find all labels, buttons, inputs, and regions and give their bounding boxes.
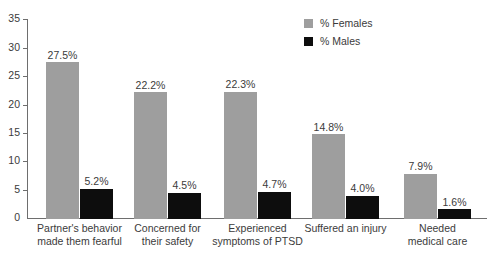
y-tick-label: 0	[14, 211, 20, 223]
x-axis-category-label: made them fearful	[37, 235, 122, 247]
bar-males	[346, 196, 379, 219]
legend-swatch-males	[304, 37, 313, 46]
bar-males	[168, 193, 201, 219]
x-axis-category-label: Partner's behavior	[37, 222, 122, 234]
y-tick-label: 35	[8, 12, 20, 24]
bar-value-label: 27.5%	[48, 49, 78, 61]
bar-value-label: 22.2%	[136, 79, 166, 91]
bar-value-label: 4.5%	[173, 179, 197, 191]
x-axis-category-label: Experienced	[228, 222, 287, 234]
y-tick-label: 20	[8, 98, 20, 110]
x-axis-category-label: Concerned for	[134, 222, 201, 234]
bar-value-label: 5.2%	[85, 175, 109, 187]
legend-label-males: % Males	[320, 35, 360, 47]
bar-males	[438, 209, 471, 218]
y-tick-label: 15	[8, 126, 20, 138]
bar-value-label: 22.3%	[226, 78, 256, 90]
bar-value-label: 4.0%	[351, 182, 375, 194]
y-tick-label: 30	[8, 41, 20, 53]
legend-label-females: % Females	[320, 17, 373, 29]
bar-males	[258, 192, 291, 219]
x-axis-category-label: symptoms of PTSD	[212, 235, 303, 247]
bar-females	[224, 92, 257, 219]
x-axis-category-label: their safety	[142, 235, 194, 247]
chart-canvas: 35 30 25 20 15 10 5 0 27.5%5.2%22.2%4.5%…	[0, 0, 493, 257]
legend-swatch-females	[304, 19, 313, 28]
y-tick-label: 25	[8, 69, 20, 81]
y-tick-label: 10	[8, 154, 20, 166]
bar-females	[404, 174, 437, 219]
bar-value-label: 1.6%	[443, 196, 467, 208]
bar-value-label: 7.9%	[409, 160, 433, 172]
x-axis-category-label: Needed	[419, 222, 456, 234]
bar-females	[312, 134, 345, 218]
bar-males	[80, 189, 113, 219]
bar-chart: 35 30 25 20 15 10 5 0 27.5%5.2%22.2%4.5%…	[0, 0, 493, 257]
x-axis-category-label: medical care	[408, 235, 468, 247]
y-tick-label: 5	[14, 183, 20, 195]
bar-females	[46, 62, 79, 218]
bar-females	[134, 92, 167, 218]
bar-value-label: 4.7%	[263, 178, 287, 190]
x-axis-category-label: Suffered an injury	[304, 222, 387, 234]
bar-value-label: 14.8%	[314, 121, 344, 133]
